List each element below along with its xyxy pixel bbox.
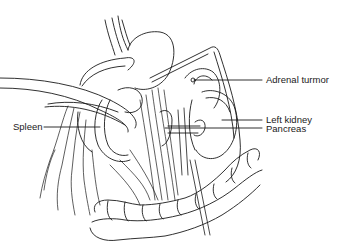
stomach bbox=[80, 32, 174, 90]
left-kidney bbox=[185, 69, 237, 159]
label-pancreas: Pancreas bbox=[266, 124, 306, 134]
label-adrenal-tumor: Adrenal turmor bbox=[266, 75, 329, 85]
diagram-canvas: Adrenal turmor Left kidney Pancreas Sple… bbox=[0, 0, 339, 247]
spleen bbox=[78, 88, 143, 162]
label-spleen: Spleen bbox=[13, 122, 43, 132]
ligament-strands bbox=[40, 106, 100, 215]
esophagus bbox=[105, 16, 130, 55]
colon bbox=[90, 149, 262, 241]
